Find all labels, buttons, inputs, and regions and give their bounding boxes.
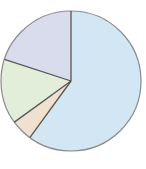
pie-chart-svg [0,0,146,169]
pie-chart [0,0,146,169]
